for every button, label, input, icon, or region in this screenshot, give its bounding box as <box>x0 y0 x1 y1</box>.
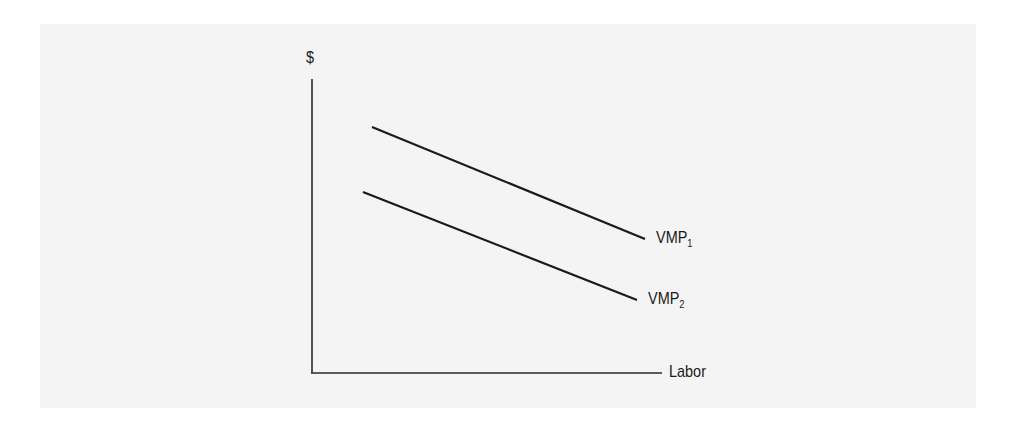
vmp2-curve <box>363 192 637 300</box>
vmp1-curve <box>372 127 645 239</box>
vmp1-label-main: VMP <box>656 228 687 247</box>
vmp2-label-main: VMP <box>648 289 679 308</box>
vmp1-label: VMP1 <box>656 228 693 249</box>
vmp1-label-subscript: 1 <box>687 237 692 249</box>
y-axis-label: $ <box>306 48 314 68</box>
chart-canvas <box>0 0 1028 421</box>
vmp2-label: VMP2 <box>648 289 685 310</box>
x-axis-label: Labor <box>669 362 706 382</box>
vmp2-label-subscript: 2 <box>679 298 684 310</box>
